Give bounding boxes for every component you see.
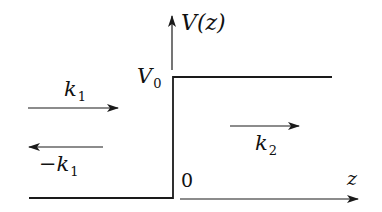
v-axis-label-text: V(z) [181,10,226,35]
incident-wave-label: k1 [64,79,86,100]
incident-sub: 1 [78,89,86,104]
reflected-wave-label: −k1 [39,154,79,175]
reflected-sub: 1 [70,164,78,179]
origin-label: 0 [181,171,193,190]
step-height-label: V0 [137,66,161,87]
transmitted-k: k [255,131,268,155]
transmitted-wave-label: k2 [255,133,277,154]
potential-step-diagram: V(z) V0 k1 −k1 k2 0 z [0,0,382,212]
v-axis-label: V(z) [181,12,226,34]
reflected-k: k [57,152,70,176]
step-height-main: V [137,64,152,88]
incident-k: k [64,77,77,101]
z-axis-label: z [347,169,357,188]
transmitted-sub: 2 [269,143,277,158]
step-height-sub: 0 [153,76,161,91]
reflected-minus: − [39,152,57,176]
